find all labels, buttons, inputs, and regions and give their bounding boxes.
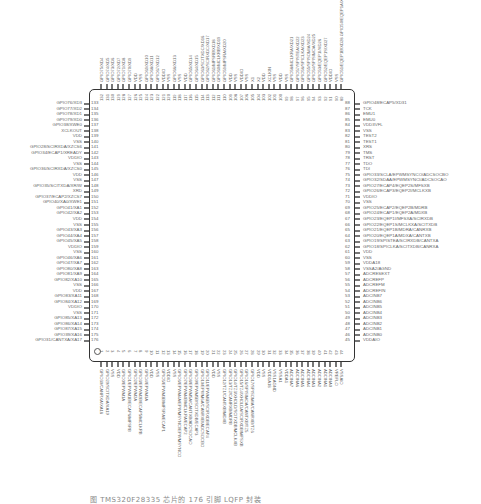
pin-lead	[189, 84, 191, 89]
pin-lead	[84, 185, 89, 187]
pin-label: ADCINA6	[295, 369, 300, 387]
pin-lead	[84, 246, 89, 248]
pin-label: ADCINA5	[300, 369, 305, 387]
pin-lead	[150, 362, 152, 367]
pin-label: VDDA1	[284, 369, 289, 383]
pin-lead	[145, 84, 147, 89]
pin-lead	[84, 323, 89, 325]
pin-number: 36	[295, 350, 300, 355]
pin-number: 91	[328, 96, 333, 101]
pin-lead	[84, 163, 89, 165]
pin-lead	[84, 307, 89, 309]
pin-lead	[84, 296, 89, 298]
pin-lead	[212, 362, 214, 367]
pin-number: 18	[194, 350, 199, 355]
pin-lead	[273, 362, 275, 367]
pin-lead	[329, 84, 331, 89]
pin-label: GPIO52/EQEP1S/XD27	[323, 37, 328, 82]
pin-lead	[84, 213, 89, 215]
pin-lead	[84, 136, 89, 138]
pin-lead	[355, 318, 360, 320]
pin-lead	[167, 84, 169, 89]
pin-lead	[134, 362, 136, 367]
pin-number: 20	[205, 350, 210, 355]
pin-lead	[257, 362, 259, 367]
pin-lead	[355, 136, 360, 138]
pin-number: 13	[166, 350, 171, 355]
pin-label: XCLKIN	[267, 67, 272, 82]
pin-lead	[84, 279, 89, 281]
pin-label: VSS	[284, 74, 289, 82]
pin-lead	[290, 84, 292, 89]
pin-lead	[240, 84, 242, 89]
pin-label: GPIO62/SCIRXDC/XD17	[205, 35, 210, 82]
pin-lead	[178, 362, 180, 367]
pin-lead	[355, 301, 360, 303]
pin-label: GPIO73/XD6	[110, 58, 115, 82]
pin-number: 101	[272, 94, 277, 101]
pin-number: 5	[121, 350, 126, 352]
pin-lead	[318, 362, 320, 367]
pin-lead	[189, 362, 191, 367]
pin-lead	[355, 125, 360, 127]
pin-lead	[355, 218, 360, 220]
pin-number: 37	[300, 350, 305, 355]
pin-number: 89	[339, 96, 344, 101]
pin-label: ADCINA3	[311, 369, 316, 387]
pin-lead	[84, 252, 89, 254]
pin-lead	[355, 285, 360, 287]
pin-lead	[251, 84, 253, 89]
pin-lead	[285, 84, 287, 89]
pin-lead	[355, 312, 360, 314]
figure-caption: 图 TMS320F28335 芯片的 176 引脚 LQFP 封装	[90, 494, 261, 504]
pin-label: ADCINA0	[328, 369, 333, 387]
pin-lead	[217, 84, 219, 89]
pin-lead	[223, 84, 225, 89]
pin-lead	[355, 230, 360, 232]
pin-lead	[84, 301, 89, 303]
pin-label: ADCINA2	[317, 369, 322, 387]
pin-lead	[355, 202, 360, 204]
pin-label: GPIO65/XD14	[188, 55, 193, 82]
pin-lead	[111, 84, 113, 89]
pin-lead	[84, 103, 89, 105]
pin-lead	[84, 218, 89, 220]
pin-lead	[145, 362, 147, 367]
pin-lead	[262, 362, 264, 367]
pin-label: GPIO58/MCLKRA/XD21	[289, 37, 294, 82]
pin-label: VDD1A18	[267, 369, 272, 388]
pin-lead	[285, 362, 287, 367]
pin-lead	[268, 362, 270, 367]
pin-lead	[268, 84, 270, 89]
pin-lead	[279, 362, 281, 367]
pin-label: GPIO59/MFSRA/XD20	[222, 39, 227, 82]
pin-lead	[335, 362, 337, 367]
pin-label: VSS	[138, 74, 143, 82]
pin-lead	[251, 362, 253, 367]
pin-label: GPIO13/TZ2/CANRXB/MDRB	[228, 369, 233, 425]
pin-label: GPIO57/SPISTEA/XD22	[295, 36, 300, 82]
pin-number: 118	[177, 94, 182, 101]
pin-number: 32	[272, 350, 277, 355]
pin-lead	[150, 84, 152, 89]
pin-lead	[355, 108, 360, 110]
pin-lead	[355, 185, 360, 187]
pin-label: GPIO5/EPWM3B/MFSRA/ECAP1	[161, 369, 166, 432]
pin-lead	[184, 362, 186, 367]
pin-number: 106	[244, 94, 249, 101]
pin-lead	[106, 84, 108, 89]
pin-number: 25	[233, 350, 238, 355]
pin-lead	[201, 362, 203, 367]
pin-label: VDDIO	[328, 69, 333, 82]
pin-number: 109	[228, 94, 233, 101]
pin-number: 94	[311, 96, 316, 101]
pin-lead	[206, 362, 208, 367]
pin-lead	[100, 362, 102, 367]
pin-label: VSS	[155, 369, 160, 377]
pin-lead	[84, 130, 89, 132]
pin-label: GPIO1/EPWM1B/ECAP6/MFSRB	[127, 369, 132, 432]
pin-lead	[84, 224, 89, 226]
pin-lead	[229, 362, 231, 367]
pin-label: GPIO9/EPWM5B/SCITXDB/ECAP3	[194, 369, 199, 435]
pin-label: GPIO11/EPWM6B/SCIRXDB/ECAP4	[205, 369, 210, 438]
